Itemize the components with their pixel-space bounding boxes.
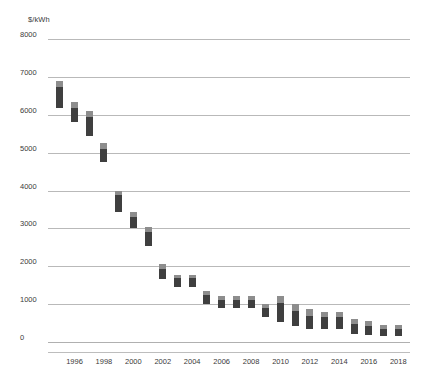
bar-lower-segment [306,316,313,329]
gridline-7000 [48,77,410,78]
bar-2000 [130,212,137,228]
y-tick-label: 1000 [20,295,46,304]
bar-1997 [86,111,93,136]
bar-lower-segment [86,117,93,136]
bar-1996 [71,102,78,122]
plot-area [48,39,410,342]
bar-upper-segment [306,309,313,316]
y-tick-label: 3000 [20,219,46,228]
bar-2012 [306,309,313,329]
bar-lower-segment [189,278,196,287]
bar-upper-segment [277,296,284,303]
bar-lower-segment [336,317,343,328]
bar-lower-segment [248,300,255,308]
gridline-1000 [48,304,410,305]
x-tick-label: 2006 [213,357,230,366]
bar-2017 [380,325,387,336]
bar-lower-segment [351,324,358,334]
bar-2011 [292,304,299,326]
bar-1998 [100,143,107,162]
x-tick-label: 2016 [360,357,377,366]
y-tick-label: 4000 [20,182,46,191]
bar-lower-segment [145,232,152,246]
gridline-4000 [48,191,410,192]
gridline-2000 [48,266,410,267]
bar-1999 [115,191,122,213]
gridline-8000 [48,39,410,40]
bar-lower-segment [203,295,210,304]
x-tick-label: 1996 [66,357,83,366]
bar-lower-segment [277,303,284,322]
bar-lower-segment [218,300,225,308]
gridline-0 [48,342,410,343]
x-tick-label: 2012 [302,357,319,366]
bar-lower-segment [262,308,269,317]
bar-lower-segment [130,217,137,228]
x-tick-label: 2010 [272,357,289,366]
x-tick-label: 2014 [331,357,348,366]
x-tick-label: 2000 [125,357,142,366]
bar-2014 [336,312,343,329]
y-tick-label: 6000 [20,106,46,115]
bar-2002 [159,264,166,279]
bar-2007 [233,296,240,308]
battery-price-chart: $/kWh 010002000300040005000600070008000 … [0,0,423,381]
bar-2008 [248,296,255,308]
bar-lower-segment [174,278,181,287]
y-tick-label: 8000 [20,30,46,39]
x-tick-label: 2008 [243,357,260,366]
bar-2010 [277,296,284,322]
bar-lower-segment [100,149,107,162]
bar-2006 [218,296,225,308]
bar-lower-segment [292,311,299,326]
bar-1995 [56,81,63,108]
gridline-3000 [48,228,410,229]
bar-2016 [365,321,372,335]
bar-2018 [395,325,402,336]
y-tick-label: 7000 [20,68,46,77]
bar-lower-segment [56,87,63,108]
bar-2009 [262,304,269,316]
y-tick-label: 5000 [20,144,46,153]
x-axis-line [48,352,410,353]
y-tick-label: 0 [20,333,46,342]
gridline-6000 [48,115,410,116]
bar-upper-segment [292,304,299,311]
bar-lower-segment [365,326,372,335]
x-tick-label: 1998 [96,357,113,366]
bar-lower-segment [159,269,166,279]
y-tick-label: 2000 [20,257,46,266]
x-tick-label: 2018 [390,357,407,366]
bar-2001 [145,227,152,246]
bar-lower-segment [115,195,122,212]
bar-lower-segment [233,300,240,308]
bar-lower-segment [395,329,402,336]
bar-lower-segment [380,329,387,336]
bar-2013 [321,312,328,329]
bar-2005 [203,291,210,304]
bar-2015 [351,319,358,334]
bar-lower-segment [321,317,328,328]
x-tick-label: 2002 [154,357,171,366]
bar-lower-segment [71,108,78,122]
x-tick-label: 2004 [184,357,201,366]
y-axis-title: $/kWh [28,15,50,24]
bar-2003 [174,275,181,287]
bar-2004 [189,275,196,287]
